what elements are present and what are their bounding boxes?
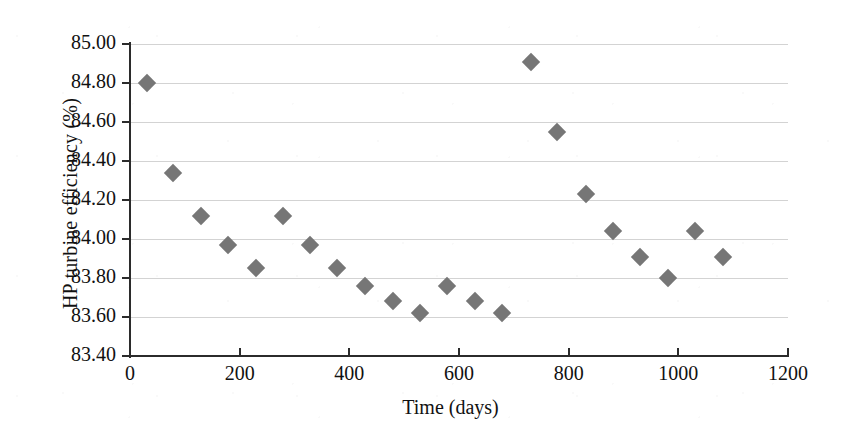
data-point	[247, 259, 265, 277]
x-tick-label: 800	[554, 362, 584, 385]
y-tick-mark	[122, 43, 130, 45]
plot-area	[130, 44, 788, 356]
data-point	[438, 277, 456, 295]
y-tick-label: 84.40	[0, 148, 116, 171]
data-point	[714, 247, 732, 265]
y-tick-label: 83.60	[0, 304, 116, 327]
y-tick-label: 84.20	[0, 187, 116, 210]
y-tick-label: 84.00	[0, 226, 116, 249]
gridline	[130, 44, 788, 45]
x-tick-label: 0	[125, 362, 135, 385]
x-tick-mark	[239, 348, 241, 356]
data-point	[493, 304, 511, 322]
data-point	[604, 222, 622, 240]
x-tick-mark	[568, 348, 570, 356]
data-point	[164, 163, 182, 181]
gridline	[130, 200, 788, 201]
x-tick-label: 400	[334, 362, 364, 385]
x-tick-label: 200	[225, 362, 255, 385]
y-tick-mark	[122, 238, 130, 240]
x-tick-mark	[677, 348, 679, 356]
y-tick-label: 83.80	[0, 265, 116, 288]
y-tick-mark	[122, 160, 130, 162]
x-tick-mark	[787, 348, 789, 356]
data-point	[547, 123, 565, 141]
x-axis-title: Time (days)	[402, 396, 498, 419]
y-tick-mark	[122, 82, 130, 84]
data-point	[383, 292, 401, 310]
y-tick-label: 84.60	[0, 109, 116, 132]
data-point	[631, 247, 649, 265]
data-point	[192, 206, 210, 224]
gridline	[130, 161, 788, 162]
data-point	[522, 52, 540, 70]
y-tick-mark	[122, 316, 130, 318]
data-point	[686, 222, 704, 240]
gridline	[130, 122, 788, 123]
y-tick-mark	[122, 199, 130, 201]
y-tick-label: 83.40	[0, 343, 116, 366]
gridline	[130, 83, 788, 84]
data-point	[411, 304, 429, 322]
data-point	[466, 292, 484, 310]
gridline	[130, 317, 788, 318]
x-axis-title-wrap: Time (days)	[0, 396, 841, 419]
x-tick-label: 1000	[658, 362, 698, 385]
y-tick-label: 84.80	[0, 70, 116, 93]
x-tick-mark	[129, 348, 131, 356]
y-tick-mark	[122, 121, 130, 123]
x-tick-mark	[348, 348, 350, 356]
data-point	[659, 269, 677, 287]
y-tick-mark	[122, 277, 130, 279]
data-point	[356, 277, 374, 295]
data-point	[328, 259, 346, 277]
x-tick-label: 1200	[768, 362, 808, 385]
scatter-chart: HP turbine efficiency (%) 83.4083.6083.8…	[0, 0, 841, 445]
y-tick-label: 85.00	[0, 31, 116, 54]
gridline	[130, 278, 788, 279]
x-tick-mark	[458, 348, 460, 356]
x-tick-label: 600	[444, 362, 474, 385]
data-point	[274, 206, 292, 224]
data-point	[138, 74, 156, 92]
